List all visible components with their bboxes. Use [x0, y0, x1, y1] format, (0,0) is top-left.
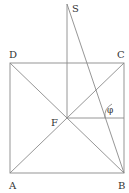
label-a: A — [8, 180, 17, 191]
geometry-diagram: S D C F A B φ — [0, 0, 129, 193]
label-f: F — [51, 117, 58, 128]
label-d: D — [9, 49, 17, 60]
label-angle-phi: φ — [107, 105, 113, 115]
label-b: B — [118, 180, 125, 191]
label-c: C — [117, 49, 125, 60]
label-s: S — [72, 3, 79, 14]
line-sb — [67, 4, 124, 173]
